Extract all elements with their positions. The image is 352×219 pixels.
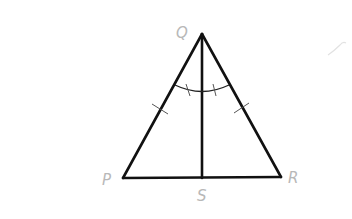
vertex-label-p: P [102,171,112,189]
vertex-label-q: Q [176,24,188,42]
side-qr [202,34,281,177]
isosceles-triangle-diagram: Q P S R [0,0,352,219]
vertex-label-s: S [197,187,207,205]
vertex-label-r: R [288,169,298,187]
side-qp [123,34,202,178]
scan-smudge [328,42,346,55]
